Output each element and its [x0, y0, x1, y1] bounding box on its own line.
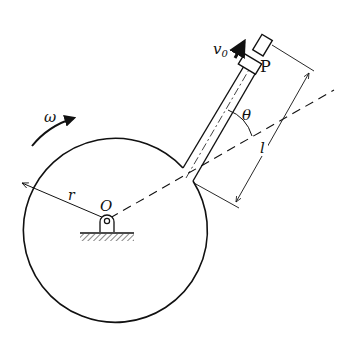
collar-P [238, 54, 261, 75]
rod-tip [253, 34, 273, 56]
radius-label: r [68, 187, 76, 203]
v0-label: v0 [213, 40, 228, 59]
length-dimension-line [236, 73, 309, 202]
point-P-label: P [260, 57, 271, 76]
disk-outline [23, 138, 207, 322]
radius-line [22, 183, 104, 218]
theta-label: θ [242, 106, 251, 124]
omega-label: ω [44, 108, 56, 126]
center-O-label: O [100, 197, 112, 215]
extension-line-top [272, 45, 314, 71]
disk-rod-diagram: v0 P θ l ω r O [0, 0, 359, 342]
pivot-support [80, 215, 134, 241]
length-label: l [260, 139, 265, 157]
